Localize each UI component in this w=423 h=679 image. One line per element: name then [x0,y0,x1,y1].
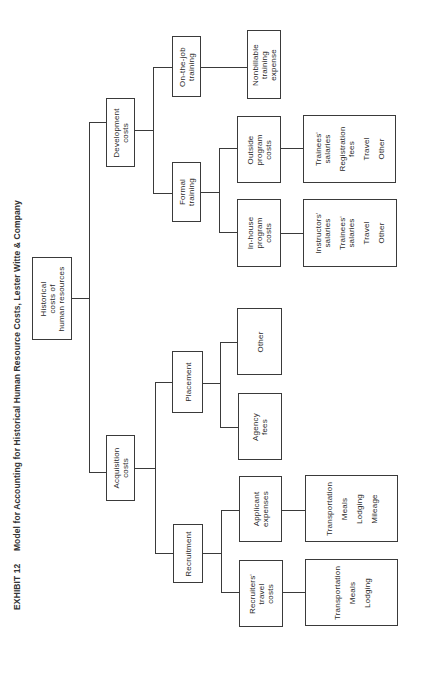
node-acquisition-costs: Acquisition costs [106,435,135,501]
node-label: Other [255,331,264,352]
connector [282,510,305,511]
node-outside-program-costs: Outside program costs [237,116,281,183]
connector [203,383,220,384]
node-label: Formal [178,179,187,205]
exhibit-caption: Model for Accounting for Historical Huma… [12,200,22,551]
node-label: Applicant [252,492,261,527]
connector [203,553,221,554]
node-applicant-expenses: Applicant expenses [239,476,282,542]
exhibit-title: EXHIBIT 12 Model for Accounting for Hist… [12,200,22,610]
connector [135,130,153,131]
connector [155,382,172,383]
node-label: Development [112,108,121,157]
node-historical-costs: Historical costs of human resources [32,257,72,340]
connector [89,122,106,123]
list-item: Other [377,139,386,160]
connector [221,510,222,593]
list-item: Travel [362,221,371,244]
connector [219,148,220,233]
node-label: costs [264,223,273,243]
node-applicant-items: Transportation Meals Lodging Mileage [305,475,398,542]
node-label: costs [266,584,275,604]
node-label: training [187,53,196,81]
node-label: fees [260,419,269,435]
node-label: costs [121,123,130,143]
node-nonbillable-training-expense: Nonbillable training expense [247,30,281,99]
exhibit-number: EXHIBIT 12 [12,564,22,610]
list-item: Meals [347,581,356,603]
connector [89,472,106,473]
node-label: expenses [261,491,270,527]
connector [221,510,239,511]
node-label: costs of [48,284,57,313]
connector [281,233,303,234]
node-label: Placement [183,362,192,402]
connector [220,427,238,428]
node-label: training [260,51,269,79]
node-recruitment: Recruitment [173,524,203,583]
connector [153,193,172,194]
connector [221,592,239,593]
node-label: travel [257,583,266,604]
connector [153,67,154,193]
list-item: Transportation [325,481,334,535]
connector [220,342,237,343]
node-placement: Placement [172,351,203,413]
list-item: Registration fees [338,124,356,174]
connector [155,382,156,554]
node-label: Nonbillable [251,44,260,86]
connector [201,192,219,193]
node-agency-fees: Agency fees [238,393,282,460]
node-label: costs [264,140,273,160]
node-label: In-house [246,217,255,250]
connector [153,67,172,68]
connector [135,468,155,469]
node-outside-program-items: Trainees' salaries Registration fees Tra… [303,115,396,183]
node-recruiters-items: Transportation Meals Lodging [305,559,398,626]
node-label: Recruiters' [248,573,257,613]
list-item: Trainees' salaries [338,214,356,252]
node-label: Acquisition [112,448,121,489]
node-label: expense [269,49,278,81]
node-in-house-program-costs: In-house program costs [237,199,281,267]
node-label: On-the-job [178,47,187,87]
connector [155,553,173,554]
connector [219,232,237,233]
node-label: program [255,134,264,165]
node-recruiters-travel-costs: Recruiters' travel costs [239,560,283,627]
node-label: Historical [39,281,48,316]
connector [201,67,247,68]
connector [281,148,303,149]
list-item: Meals [340,497,349,519]
list-item: Lodging [355,494,364,524]
connector [220,342,221,428]
list-item: Lodging [362,578,371,608]
list-item: Other [377,223,386,244]
connector [72,298,89,299]
node-development-costs: Development costs [106,98,135,167]
node-on-the-job-training: On-the-job training [172,36,201,97]
list-item: Travel [362,137,371,160]
node-label: Agency [251,413,260,441]
node-label: costs [121,458,130,478]
connector [283,592,305,593]
node-label: Outside [246,135,255,164]
node-in-house-program-items: Instructors' salaries Trainees' salaries… [303,199,397,267]
node-label: training [187,178,196,206]
node-label: human resources [57,266,66,331]
list-item: Trainees' salaries [314,130,332,168]
connector [89,122,90,473]
node-placement-other: Other [237,308,282,375]
list-item: Transportation [332,565,341,619]
list-item: Instructors' salaries [314,206,332,260]
node-formal-training: Formal training [172,162,201,222]
node-label: Recruitment [184,531,193,576]
node-label: program [255,217,264,248]
list-item: Mileage [370,494,379,523]
connector [219,148,237,149]
